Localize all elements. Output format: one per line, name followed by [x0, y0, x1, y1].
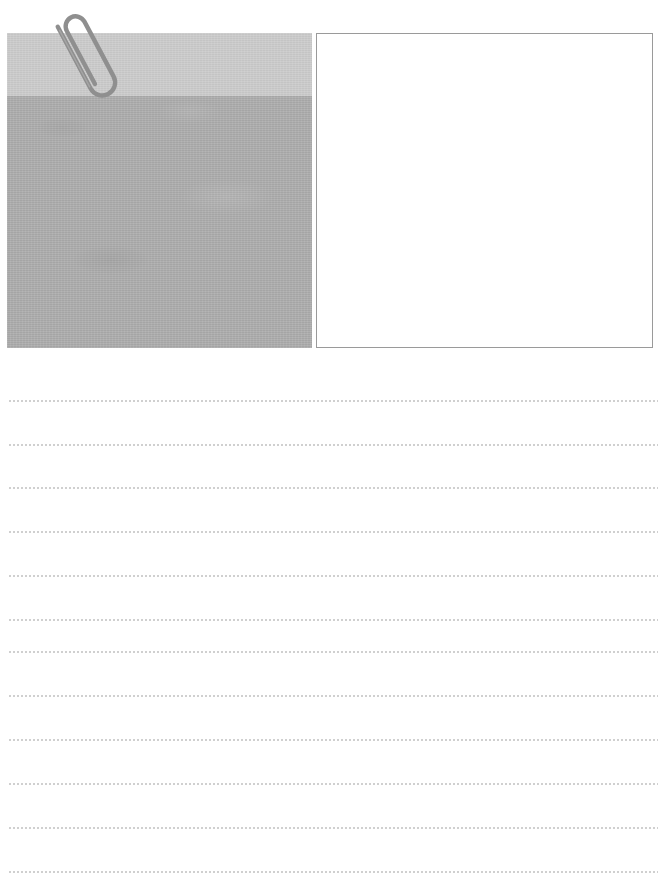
rule-line — [8, 783, 658, 785]
notepad-page — [0, 0, 665, 888]
rule-line — [8, 827, 658, 829]
photo-sky-band — [7, 33, 312, 96]
rule-line — [8, 531, 658, 533]
photo-ground-band — [7, 96, 312, 348]
blank-note-card[interactable] — [316, 33, 653, 348]
rule-line — [8, 619, 658, 621]
rule-line — [8, 871, 658, 873]
rule-line — [8, 739, 658, 741]
media-area — [0, 0, 665, 360]
rule-line — [8, 575, 658, 577]
rule-line — [8, 400, 658, 402]
rule-line — [8, 444, 658, 446]
rule-line — [8, 695, 658, 697]
ruled-writing-area[interactable] — [0, 360, 665, 888]
rule-line — [8, 487, 658, 489]
rule-line — [8, 651, 658, 653]
photograph-placeholder[interactable] — [7, 33, 312, 348]
